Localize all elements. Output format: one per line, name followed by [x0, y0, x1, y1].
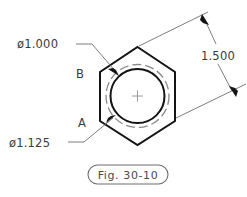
extension-line-upper: [139, 12, 208, 46]
bore-diameter-text: ø1.000: [17, 37, 58, 51]
center-mark-icon: [132, 91, 143, 102]
leader-line-counterbore: [84, 118, 113, 142]
figure-caption-text: Fig. 30-10: [98, 169, 159, 182]
arrowhead-counterbore: [106, 115, 116, 123]
leader-line-bore: [92, 44, 116, 72]
figure-caption-group: Fig. 30-10: [88, 165, 168, 184]
counterbore-diameter-text: ø1.125: [9, 136, 50, 150]
reference-label-a: A: [78, 116, 86, 130]
technical-drawing-canvas: 1.500 ø1.000 ø1.125 B A Fig. 30-10: [0, 0, 247, 197]
dimension-1500-text: 1.500: [201, 49, 235, 63]
dimension-1500-group: 1.500: [139, 12, 246, 118]
reference-label-b: B: [76, 67, 84, 81]
